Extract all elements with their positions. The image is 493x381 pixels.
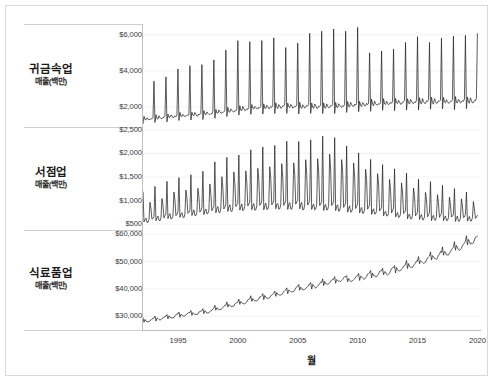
series-line-grocery <box>143 236 477 323</box>
y-tick-label: $1,000 <box>78 197 142 205</box>
plot-area: 귀금속업 매출(백만) $2,000$4,000$6,000 서점업 매출(백만… <box>12 12 481 369</box>
y-tick-label: $4,000 <box>78 67 142 75</box>
y-tick-label: $60,000 <box>78 230 142 238</box>
x-tick-label: 2005 <box>278 336 318 345</box>
y-tick-label: $2,000 <box>78 149 142 157</box>
facet-bookstores: 서점업 매출(백만) $500$1,000$1,500$2,000$2,500 <box>12 127 481 230</box>
panel-plot-grocery <box>143 230 481 330</box>
y-tick-label: $40,000 <box>78 285 142 293</box>
y-axis-ticks-grocery: $30,000$40,000$50,000$60,000 <box>78 230 142 330</box>
x-tick-label: 2010 <box>338 336 378 345</box>
panel-bookstores <box>142 127 481 230</box>
panel-plot-jewelry <box>143 24 481 127</box>
panel-jewelry <box>142 24 481 127</box>
y-axis-ticks-bookstores: $500$1,000$1,500$2,000$2,500 <box>78 127 142 230</box>
y-tick-label: $2,000 <box>78 103 142 111</box>
chart-figure: 귀금속업 매출(백만) $2,000$4,000$6,000 서점업 매출(백만… <box>0 0 493 381</box>
y-tick-label: $50,000 <box>78 258 142 266</box>
panel-plot-bookstores <box>143 127 481 230</box>
x-tick-label: 1995 <box>158 336 198 345</box>
x-tick-label: 2015 <box>398 336 438 345</box>
y-tick-label: $2,500 <box>78 126 142 134</box>
y-tick-label: $30,000 <box>78 312 142 320</box>
y-tick-label: $1,500 <box>78 173 142 181</box>
facet-jewelry: 귀금속업 매출(백만) $2,000$4,000$6,000 <box>12 24 481 127</box>
x-tick-label: 2020 <box>457 336 493 345</box>
series-line-jewelry <box>143 27 477 123</box>
y-tick-label: $6,000 <box>78 31 142 39</box>
facet-grocery: 식료품업 매출(백만) $30,000$40,000$50,000$60,000 <box>12 230 481 330</box>
x-axis-line <box>142 330 481 331</box>
y-tick-label: $500 <box>78 220 142 228</box>
y-axis-ticks-jewelry: $2,000$4,000$6,000 <box>78 24 142 127</box>
series-line-bookstores <box>143 136 477 222</box>
x-axis-title: 월 <box>142 352 481 367</box>
x-tick-label: 2000 <box>218 336 258 345</box>
panel-grocery <box>142 230 481 330</box>
